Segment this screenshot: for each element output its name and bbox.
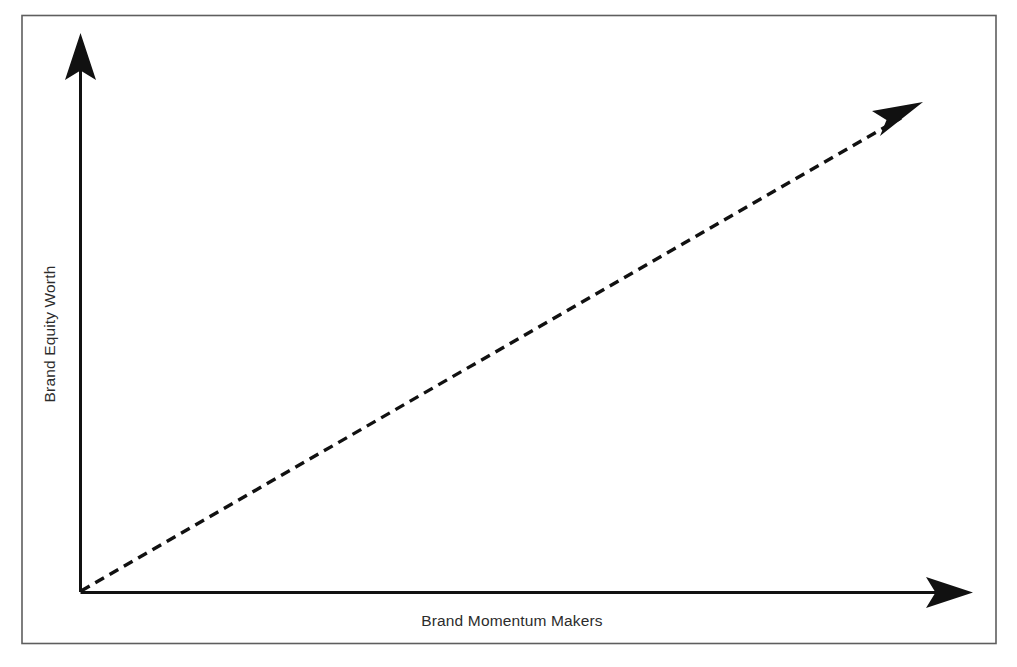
- chart-figure: Brand Equity Worth Brand Momentum Makers: [0, 0, 1017, 667]
- chart-canvas: Brand Equity Worth Brand Momentum Makers: [0, 0, 1017, 667]
- figure-border: [22, 16, 996, 644]
- x-axis-label: Brand Momentum Makers: [421, 612, 603, 629]
- y-axis-label: Brand Equity Worth: [41, 266, 58, 403]
